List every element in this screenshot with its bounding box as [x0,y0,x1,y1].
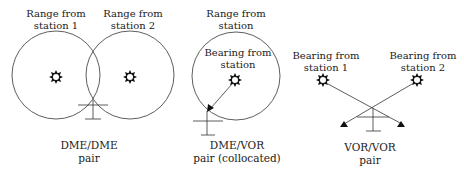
bearing-line [210,84,232,109]
label-line: station [204,59,271,71]
label-range-station-2: Range from station 2 [103,8,163,32]
label-line: station 2 [389,62,456,74]
station-2-icon [123,70,137,84]
panel-vor-vor [316,73,424,131]
aircraft-position-icon [357,108,389,131]
aircraft-position-icon [193,111,223,135]
label-bearing-station-1: Bearing from station 1 [292,50,359,74]
caption-line: pair [344,154,395,167]
label-line: station 2 [103,20,163,32]
label-range-station: Range from station [206,8,266,32]
station-2-icon [410,73,424,87]
bearing-line-station-1 [328,84,402,124]
caption-dme-vor: DME/VOR pair (collocated) [193,139,280,165]
label-line: station [206,20,266,32]
caption-dme-dme: DME/DME pair [60,139,117,165]
bearing-line-station-2 [344,84,412,124]
caption-line: pair [60,152,117,165]
panel-dme-dme [12,31,174,119]
caption-line: VOR/VOR [344,141,395,154]
station-1-icon [316,73,330,87]
label-line: Range from [103,8,163,20]
label-line: Range from [26,8,86,20]
caption-line: DME/DME [60,139,117,152]
label-range-station-1: Range from station 1 [26,8,86,32]
label-line: Bearing from [204,47,271,59]
label-bearing-station-2: Bearing from station 2 [389,50,456,74]
aircraft-position-icon [78,100,108,119]
label-line: Bearing from [292,50,359,62]
label-line: station 1 [292,62,359,74]
label-line: Bearing from [389,50,456,62]
station-1-icon [49,70,63,84]
caption-vor-vor: VOR/VOR pair [344,141,395,167]
station-icon [228,73,242,87]
label-bearing-station: Bearing from station [204,47,271,71]
navigation-fix-diagram: Range from station 1 Range from station … [0,0,464,178]
label-line: station 1 [26,20,86,32]
caption-line: pair (collocated) [193,152,280,165]
label-line: Range from [206,8,266,20]
caption-line: DME/VOR [193,139,280,152]
